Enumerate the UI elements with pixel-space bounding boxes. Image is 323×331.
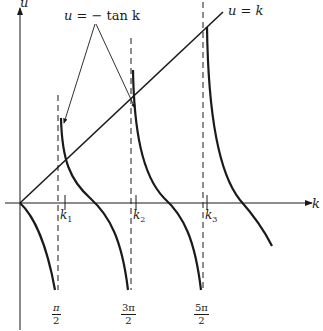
leader-line-right bbox=[96, 24, 135, 108]
asymptote-label-3pi-over-2: 3π2 bbox=[121, 303, 136, 326]
u-axis-label: u bbox=[20, 0, 28, 9]
tan-branch-1 bbox=[61, 118, 128, 290]
tan-branch-2 bbox=[133, 70, 201, 290]
k-axis-label: k bbox=[312, 197, 320, 210]
root-label-k3: k3 bbox=[205, 209, 217, 224]
asymptote-label-pi-over-2: π2 bbox=[52, 303, 61, 326]
root-label-k2: k2 bbox=[133, 209, 145, 224]
asymptote-label-5pi-over-2: 5π2 bbox=[194, 303, 209, 326]
plot-canvas bbox=[0, 0, 323, 331]
tan-curve-label: u = − tan k bbox=[64, 9, 140, 22]
line-u-equals-k bbox=[20, 12, 223, 203]
leader-line-left bbox=[64, 24, 95, 123]
root-label-k1: k1 bbox=[60, 209, 72, 224]
tan-branch-0 bbox=[20, 203, 55, 290]
line-label: u = k bbox=[228, 4, 263, 17]
